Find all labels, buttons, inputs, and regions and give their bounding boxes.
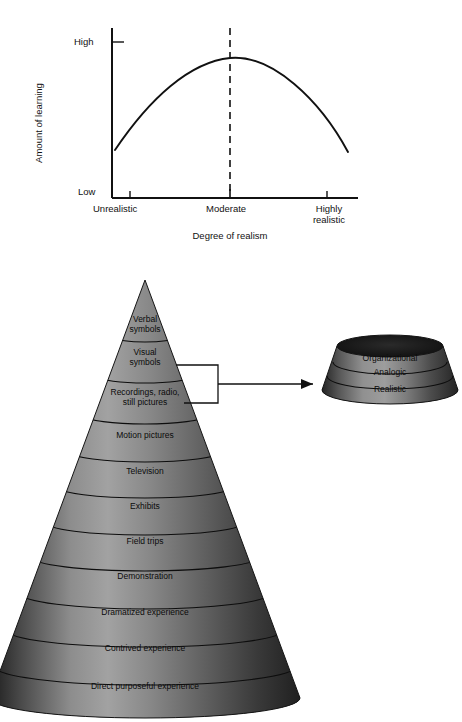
small-cone-band-label-realistic: Realistic bbox=[330, 385, 450, 395]
big-cone-body bbox=[0, 280, 300, 718]
learning-realism-chart: High Low Amount of learning Unrealistic … bbox=[0, 0, 462, 258]
arrow-head-icon bbox=[301, 379, 313, 389]
x-tick-label-highly-realistic: Highly realistic bbox=[300, 203, 358, 225]
x-tick-label-moderate: Moderate bbox=[206, 203, 246, 214]
learning-curve bbox=[115, 58, 348, 152]
small-cone-band-label-organizational: Organizational bbox=[330, 354, 450, 364]
y-axis-high-label: High bbox=[74, 36, 94, 47]
cone-canvas bbox=[0, 258, 462, 722]
y-axis-low-label: Low bbox=[78, 186, 95, 197]
bracket-arrow-connector bbox=[176, 365, 313, 403]
y-axis-title: Amount of learning bbox=[33, 68, 44, 178]
x-tick-label-unrealistic: Unrealistic bbox=[93, 203, 137, 214]
cone-lateral-surface bbox=[0, 280, 300, 718]
x-tick-label-line2: realistic bbox=[313, 214, 345, 225]
cone-of-experience-figure: Verbal symbols Visual symbols Recordings… bbox=[0, 258, 462, 722]
x-tick-label-line1: Highly bbox=[316, 203, 342, 214]
chart-canvas bbox=[0, 0, 462, 258]
x-axis-title: Degree of realism bbox=[160, 230, 300, 241]
small-cone-band-label-analogic: Analogic bbox=[330, 368, 450, 378]
